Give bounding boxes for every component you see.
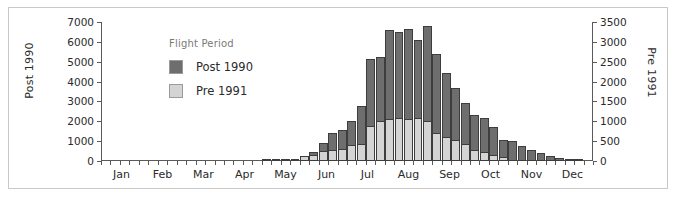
x-tick-mark bbox=[442, 161, 443, 165]
bar-group bbox=[319, 22, 328, 161]
bar-group bbox=[432, 22, 441, 161]
bar-pre-1991 bbox=[319, 151, 328, 161]
axis-spine-left bbox=[101, 22, 102, 161]
y-tick-mark bbox=[97, 121, 101, 122]
y-tick-mark bbox=[593, 82, 597, 83]
bar-pre-1991 bbox=[395, 118, 404, 161]
x-tick-label-dec: Dec bbox=[562, 168, 583, 181]
x-tick-mark bbox=[517, 161, 518, 165]
bar-group bbox=[508, 22, 517, 161]
y-tick-label: 3500 bbox=[600, 17, 627, 28]
x-tick-mark bbox=[489, 161, 490, 165]
x-tick-mark bbox=[527, 161, 528, 165]
x-tick-mark bbox=[139, 161, 140, 165]
x-tick-mark bbox=[479, 161, 480, 165]
y-tick-label: 6000 bbox=[67, 37, 94, 48]
bar-pre-1991 bbox=[272, 159, 281, 161]
axis-spine-right bbox=[592, 22, 593, 161]
x-tick-mark bbox=[394, 161, 395, 165]
bar-post-1990 bbox=[527, 150, 536, 161]
x-tick-mark bbox=[366, 161, 367, 165]
bar-post-1990 bbox=[518, 146, 527, 161]
x-tick-label-jan: Jan bbox=[113, 168, 130, 181]
x-tick-mark bbox=[546, 161, 547, 165]
bar-pre-1991 bbox=[366, 126, 375, 161]
bar-pre-1991 bbox=[385, 119, 394, 161]
bar-pre-1991 bbox=[470, 150, 479, 161]
bar-group bbox=[262, 22, 271, 161]
y-axis-title-right: Pre 1991 bbox=[645, 27, 658, 119]
bar-pre-1991 bbox=[442, 137, 451, 161]
x-tick-mark bbox=[148, 161, 149, 165]
bar-group bbox=[423, 22, 432, 161]
bar-group bbox=[565, 22, 574, 161]
y-tick-label: 5000 bbox=[67, 56, 94, 67]
bar-group bbox=[366, 22, 375, 161]
bar-group bbox=[574, 22, 583, 161]
y-tick-mark bbox=[97, 62, 101, 63]
x-tick-label-aug: Aug bbox=[398, 168, 419, 181]
y-tick-mark bbox=[97, 141, 101, 142]
bar-pre-1991 bbox=[432, 133, 441, 161]
x-tick-label-jul: Jul bbox=[361, 168, 374, 181]
x-tick-mark bbox=[252, 161, 253, 165]
legend-item-post-1990: Post 1990 bbox=[169, 60, 253, 74]
bar-post-1990 bbox=[546, 156, 555, 161]
bar-pre-1991 bbox=[414, 118, 423, 161]
x-tick-mark bbox=[129, 161, 130, 165]
bar-pre-1991 bbox=[281, 159, 290, 161]
bar-post-1990 bbox=[574, 159, 583, 161]
bar-group bbox=[376, 22, 385, 161]
bar-pre-1991 bbox=[347, 145, 356, 161]
bar-group bbox=[527, 22, 536, 161]
bar-pre-1991 bbox=[376, 121, 385, 161]
bar-group bbox=[309, 22, 318, 161]
x-tick-mark bbox=[224, 161, 225, 165]
bar-group bbox=[385, 22, 394, 161]
bar-group bbox=[480, 22, 489, 161]
x-tick-mark bbox=[565, 161, 566, 165]
bar-group bbox=[489, 22, 498, 161]
bar-pre-1991 bbox=[291, 159, 300, 161]
x-tick-mark bbox=[271, 161, 272, 165]
x-tick-mark bbox=[508, 161, 509, 165]
x-tick-mark bbox=[375, 161, 376, 165]
legend: Flight Period Post 1990 Pre 1991 bbox=[169, 38, 253, 108]
legend-swatch-icon-post-1990 bbox=[169, 60, 183, 74]
bar-post-1990 bbox=[555, 158, 564, 161]
bar-group bbox=[499, 22, 508, 161]
legend-label-pre-1991: Pre 1991 bbox=[196, 84, 247, 98]
bar-group bbox=[442, 22, 451, 161]
bar-group bbox=[404, 22, 413, 161]
y-tick-mark bbox=[97, 101, 101, 102]
x-tick-mark bbox=[432, 161, 433, 165]
x-tick-mark bbox=[196, 161, 197, 165]
y-tick-label: 4000 bbox=[67, 76, 94, 87]
x-tick-mark bbox=[243, 161, 244, 165]
x-tick-label-may: May bbox=[274, 168, 297, 181]
chart-figure: Post 1990 Pre 1991 010002000300040005000… bbox=[8, 7, 668, 189]
y-tick-mark bbox=[97, 82, 101, 83]
bar-post-1990 bbox=[537, 153, 546, 161]
y-tick-label: 1500 bbox=[600, 96, 627, 107]
x-tick-label-feb: Feb bbox=[153, 168, 172, 181]
y-tick-mark bbox=[593, 22, 597, 23]
bar-group bbox=[461, 22, 470, 161]
bar-group bbox=[451, 22, 460, 161]
y-tick-label: 1000 bbox=[600, 116, 627, 127]
x-tick-mark bbox=[328, 161, 329, 165]
x-tick-mark bbox=[385, 161, 386, 165]
x-tick-mark bbox=[423, 161, 424, 165]
bar-group bbox=[395, 22, 404, 161]
bar-group bbox=[518, 22, 527, 161]
x-tick-label-nov: Nov bbox=[521, 168, 542, 181]
x-tick-mark bbox=[404, 161, 405, 165]
bar-pre-1991 bbox=[357, 144, 366, 161]
bar-group bbox=[546, 22, 555, 161]
bar-pre-1991 bbox=[262, 159, 271, 161]
bar-pre-1991 bbox=[300, 156, 309, 161]
x-tick-mark bbox=[338, 161, 339, 165]
y-tick-label: 0 bbox=[600, 156, 607, 167]
y-tick-mark bbox=[593, 101, 597, 102]
bar-pre-1991 bbox=[309, 155, 318, 161]
